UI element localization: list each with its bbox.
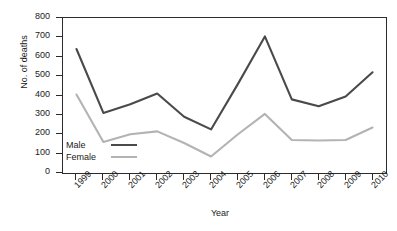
y-axis-tick-label: 100 — [22, 148, 50, 157]
y-axis-tick-label: 800 — [22, 12, 50, 21]
y-axis-tick-label: 0 — [22, 167, 50, 176]
y-axis-tick-labels: 0100200300400500600700800 — [22, 0, 50, 231]
y-axis-tick-label: 600 — [22, 51, 50, 60]
line-chart: No. of deaths 0100200300400500600700800 … — [0, 0, 397, 231]
legend-swatch-female — [111, 156, 137, 158]
legend-item-female: Female — [66, 151, 137, 163]
legend-label-female: Female — [66, 151, 109, 163]
legend: Male Female — [66, 139, 137, 163]
series-line-male — [76, 36, 372, 129]
legend-item-male: Male — [66, 139, 137, 151]
y-axis-tick-label: 700 — [22, 31, 50, 40]
y-axis-tick-label: 400 — [22, 90, 50, 99]
y-axis-tick-label: 500 — [22, 70, 50, 79]
legend-label-male: Male — [66, 139, 109, 151]
legend-swatch-male — [111, 144, 137, 146]
y-axis-tick-label: 200 — [22, 128, 50, 137]
x-axis-title: Year — [55, 208, 385, 218]
y-axis-tick-label: 300 — [22, 109, 50, 118]
